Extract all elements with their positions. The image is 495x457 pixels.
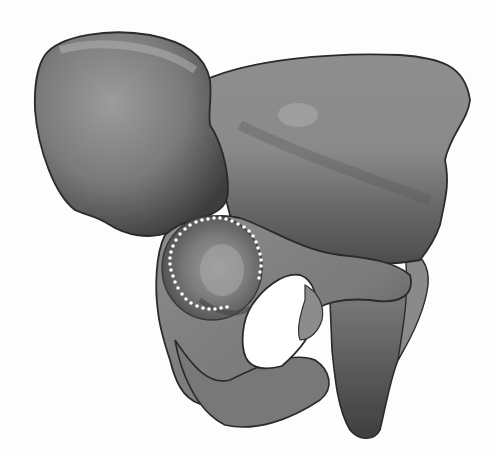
- ischium-shape: [330, 284, 415, 439]
- acetabular-fossa-highlight: [200, 244, 244, 296]
- illustration-stage: [0, 0, 495, 457]
- ilium-wing-left-shape: [35, 32, 228, 236]
- hip-bone-illustration: [0, 0, 495, 457]
- ilium-tubercle-highlight: [278, 103, 318, 127]
